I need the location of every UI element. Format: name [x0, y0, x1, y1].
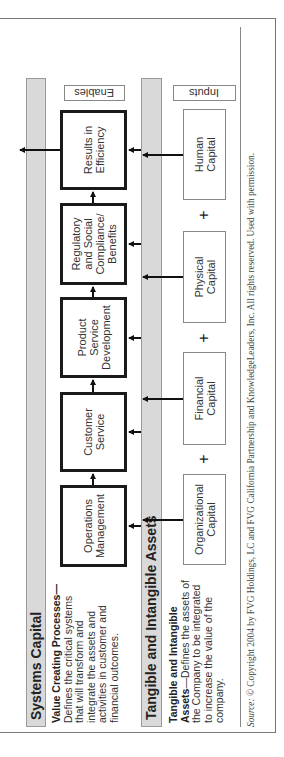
rotated-diagram: Systems Capital Value Creating Processes… — [0, 0, 284, 757]
source-credit: Source: © Copyright 2004 by FVG Holdings… — [246, 153, 256, 727]
arrows-layer — [0, 0, 284, 757]
source-divider — [240, 27, 241, 727]
